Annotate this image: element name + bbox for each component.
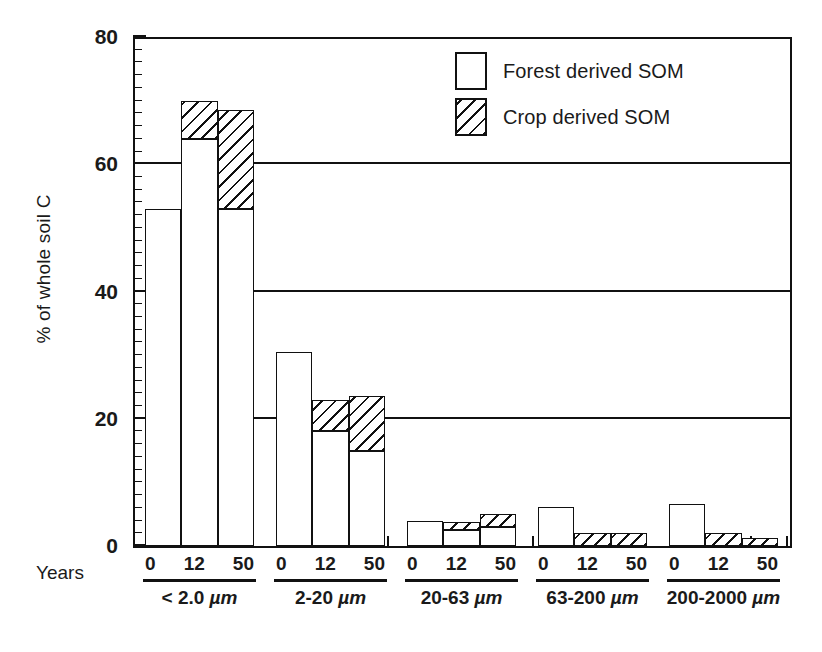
year-label: 50 [626, 553, 647, 575]
segment-crop-derived-som [611, 533, 647, 546]
plot-border-top [133, 37, 792, 39]
group-year-ticks: 01250 [401, 553, 522, 575]
year-label: 50 [757, 553, 778, 575]
x-group-1: 01250< 2.0 µm [139, 553, 260, 609]
y-minor-tick [135, 151, 142, 152]
segment-crop-derived-som [181, 101, 217, 139]
segment-forest-derived-som [218, 209, 254, 546]
segment-crop-derived-som [218, 110, 254, 209]
y-minor-tick [135, 481, 142, 482]
bar-5-0yr [669, 504, 705, 546]
years-axis-label: Years [36, 562, 84, 584]
y-minor-tick [135, 278, 142, 279]
segment-forest-derived-som [443, 530, 479, 546]
legend-label: Forest derived SOM [503, 60, 684, 83]
bar-4-12yr [574, 533, 610, 546]
year-label: 12 [446, 553, 467, 575]
x-axis-group-labels: 01250< 2.0 µm012502-20 µm0125020-63 µm01… [133, 553, 792, 648]
y-minor-tick [135, 367, 142, 368]
year-label: 0 [669, 553, 680, 575]
segment-crop-derived-som [443, 522, 479, 530]
y-minor-tick [135, 341, 142, 342]
bar-2-0yr [276, 352, 312, 546]
y-tick-label-0: 0 [74, 535, 118, 556]
group-size-class-label: 63-200 µm [532, 587, 653, 609]
y-minor-tick [135, 125, 142, 126]
year-label: 0 [538, 553, 549, 575]
y-axis-tick-labels: 806040200 [66, 0, 118, 652]
segment-crop-derived-som [349, 396, 385, 450]
y-minor-tick [135, 316, 142, 317]
bar-3-12yr [443, 522, 479, 546]
y-minor-tick [135, 176, 142, 177]
group-underline [667, 579, 780, 582]
segment-forest-derived-som [480, 527, 516, 546]
y-axis-line [133, 37, 135, 548]
bar-1-50yr [218, 110, 254, 546]
y-minor-tick [135, 456, 142, 457]
segment-forest-derived-som [407, 521, 443, 546]
x-tick [387, 536, 389, 546]
bar-1-0yr [145, 209, 181, 546]
x-tick [133, 536, 135, 546]
year-label: 12 [708, 553, 729, 575]
y-minor-tick [135, 507, 142, 508]
soil-carbon-stacked-bar-chart: % of whole soil C 806040200 Forest deriv… [0, 0, 822, 652]
y-minor-tick [135, 100, 142, 101]
y-minor-tick [135, 303, 142, 304]
x-group-5: 01250200-2000 µm [663, 553, 784, 609]
x-axis-line [133, 546, 792, 548]
group-year-ticks: 01250 [663, 553, 784, 575]
y-minor-tick [135, 112, 142, 113]
y-minor-tick [135, 138, 142, 139]
x-tick [532, 536, 534, 546]
y-minor-tick [135, 532, 142, 533]
segment-crop-derived-som [742, 538, 778, 546]
year-label: 0 [145, 553, 156, 575]
x-tick [786, 536, 788, 546]
year-label: 12 [577, 553, 598, 575]
legend-item-forest: Forest derived SOM [455, 48, 684, 94]
group-size-class-label: 2-20 µm [270, 587, 391, 609]
group-size-class-label: 200-2000 µm [663, 587, 784, 609]
segment-crop-derived-som [574, 533, 610, 546]
group-underline [274, 579, 387, 582]
group-year-ticks: 01250 [139, 553, 260, 575]
y-tick-label-20: 20 [74, 408, 118, 429]
bar-3-50yr [480, 514, 516, 546]
segment-forest-derived-som [669, 504, 705, 546]
y-minor-tick [135, 354, 142, 355]
year-label: 50 [495, 553, 516, 575]
bar-5-50yr [742, 538, 778, 546]
segment-forest-derived-som [312, 431, 348, 546]
y-minor-tick [135, 494, 142, 495]
segment-crop-derived-som [480, 514, 516, 527]
bar-4-50yr [611, 533, 647, 546]
x-group-4: 0125063-200 µm [532, 553, 653, 609]
y-minor-tick [135, 392, 142, 393]
y-minor-tick [135, 405, 142, 406]
group-year-ticks: 01250 [532, 553, 653, 575]
y-minor-tick [135, 61, 142, 62]
y-minor-tick [135, 520, 142, 521]
legend-label: Crop derived SOM [503, 106, 670, 129]
y-axis-title: % of whole soil C [33, 159, 55, 379]
year-label: 50 [233, 553, 254, 575]
chart-legend: Forest derived SOMCrop derived SOM [455, 48, 684, 140]
year-label: 0 [407, 553, 418, 575]
y-minor-tick [135, 227, 142, 228]
y-minor-tick [135, 430, 142, 431]
x-group-3: 0125020-63 µm [401, 553, 522, 609]
y-minor-tick [135, 189, 142, 190]
segment-forest-derived-som [145, 209, 181, 546]
segment-crop-derived-som [312, 400, 348, 432]
year-label: 12 [184, 553, 205, 575]
group-underline [536, 579, 649, 582]
segment-crop-derived-som [705, 533, 741, 546]
y-minor-tick [135, 329, 142, 330]
year-label: 0 [276, 553, 287, 575]
y-minor-tick [135, 443, 142, 444]
y-minor-tick [135, 87, 142, 88]
y-minor-tick [135, 380, 142, 381]
y-minor-tick [135, 74, 142, 75]
